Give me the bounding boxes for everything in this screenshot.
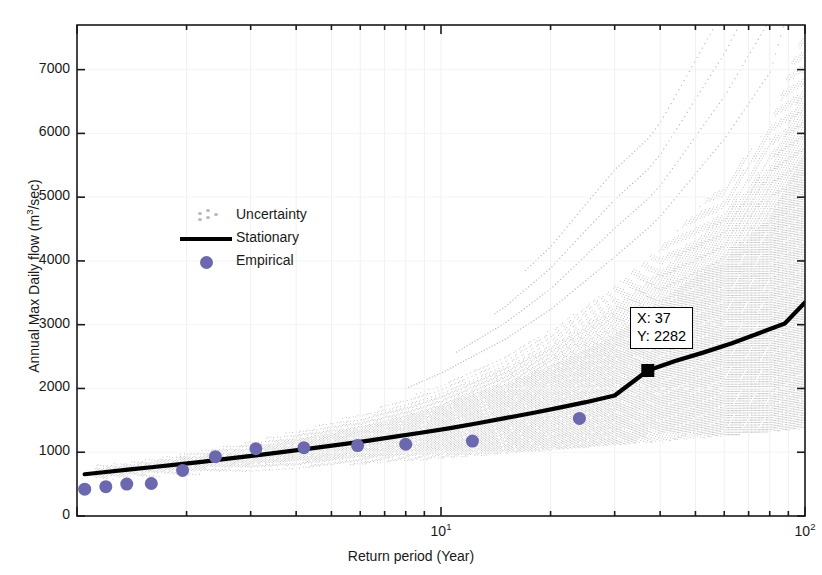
x-tick-label: 102 bbox=[782, 523, 822, 539]
y-tick-label: 6000 bbox=[14, 123, 70, 139]
empirical-swatch-icon bbox=[180, 252, 232, 272]
y-tick-label: 5000 bbox=[14, 187, 70, 203]
data-tip-box: X: 37 Y: 2282 bbox=[630, 307, 693, 349]
legend-item-empirical: Empirical bbox=[178, 252, 338, 274]
y-tick-label: 4000 bbox=[14, 251, 70, 267]
x-tick-label: 101 bbox=[418, 523, 464, 539]
y-tick-label: 0 bbox=[14, 506, 70, 522]
legend-item-uncertainty: Uncertainty bbox=[178, 206, 338, 228]
chart-plot bbox=[0, 0, 822, 575]
legend: Uncertainty Stationary Empirical bbox=[178, 206, 338, 274]
legend-label-empirical: Empirical bbox=[236, 252, 294, 268]
y-axis-label: Annual Max Daily flow (m3/sec) bbox=[26, 41, 42, 511]
data-tip-y: Y: 2282 bbox=[637, 328, 686, 346]
legend-label-uncertainty: Uncertainty bbox=[236, 206, 307, 222]
x-axis-label: Return period (Year) bbox=[0, 548, 822, 564]
data-tip-x: X: 37 bbox=[637, 310, 686, 328]
uncertainty-swatch-icon bbox=[180, 206, 232, 226]
legend-label-stationary: Stationary bbox=[236, 229, 299, 245]
stationary-swatch-icon bbox=[180, 229, 232, 249]
datatip-marker bbox=[641, 364, 654, 377]
legend-item-stationary: Stationary bbox=[178, 229, 338, 251]
figure-canvas: Adezai River at Adezai Bridge Annual Max… bbox=[0, 0, 822, 575]
y-tick-label: 2000 bbox=[14, 378, 70, 394]
y-tick-label: 3000 bbox=[14, 315, 70, 331]
y-tick-label: 7000 bbox=[14, 60, 70, 76]
y-tick-label: 1000 bbox=[14, 442, 70, 458]
